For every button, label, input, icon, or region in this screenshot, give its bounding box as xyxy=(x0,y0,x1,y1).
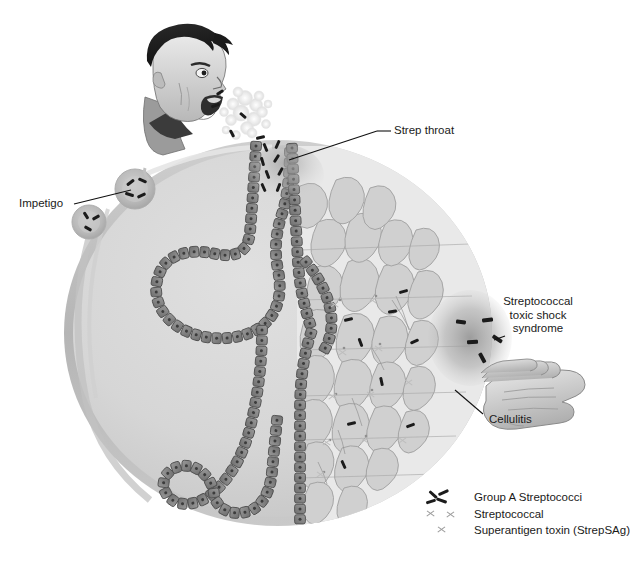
epithelial-cell xyxy=(297,358,309,369)
legend-label-strep-sag-2: Superantigen toxin (StrepSAg) xyxy=(474,523,630,538)
epithelial-cell xyxy=(295,484,306,493)
toxin-x-icon xyxy=(368,296,377,305)
toxin-x-icon xyxy=(338,348,347,357)
bacteria-rods-icon xyxy=(424,490,464,506)
epithelial-cell xyxy=(181,460,191,471)
legend-item-group-a-strep: Group A Streptococci xyxy=(424,490,609,507)
toxin-x-icon xyxy=(374,344,383,353)
epithelial-cell xyxy=(222,332,232,344)
epithelial-cell xyxy=(267,457,279,467)
toxin-x-icon xyxy=(330,300,339,309)
toxin-x-icon xyxy=(424,507,464,523)
epithelial-cell xyxy=(247,407,259,418)
toxin-x-icon xyxy=(322,438,331,447)
epithelial-cell xyxy=(257,325,268,334)
epithelial-cell xyxy=(294,278,306,289)
epithelial-cell xyxy=(325,323,337,333)
epithelial-cell xyxy=(295,452,306,461)
respiratory-droplet-spray xyxy=(220,87,273,140)
epithelial-cell xyxy=(326,313,337,323)
legend-rod xyxy=(436,497,447,504)
epithelial-cell xyxy=(250,141,261,151)
epithelial-cell xyxy=(274,281,285,290)
epithelial-cell xyxy=(212,333,222,344)
epithelial-cell xyxy=(298,298,311,309)
legend: Group A Streptococci Streptococcal Super… xyxy=(424,490,609,539)
epithelial-cell xyxy=(269,436,281,446)
legend-item-strep-sag-line2: Superantigen toxin (StrepSAg) xyxy=(424,523,609,539)
epithelial-cell xyxy=(270,250,281,260)
legend-rod xyxy=(438,489,449,497)
legend-item-strep-sag-line1: Streptococcal xyxy=(424,507,609,523)
epithelial-cell xyxy=(199,246,209,258)
toxin-x-icon xyxy=(404,378,413,387)
epithelial-cell xyxy=(273,218,286,230)
toxin-x-icon xyxy=(366,390,375,399)
epithelial-cell xyxy=(201,331,212,343)
epithelial-cell xyxy=(293,267,305,277)
epithelial-cell xyxy=(251,387,263,398)
epithelial-cell xyxy=(291,237,302,247)
epithelial-cell xyxy=(295,494,306,503)
coughing-man-profile xyxy=(143,24,233,155)
epithelial-cell xyxy=(151,276,163,287)
epithelial-cell xyxy=(295,421,306,430)
epithelial-cell xyxy=(270,426,282,436)
epithelial-cell xyxy=(266,467,278,477)
epithelial-cell xyxy=(246,203,257,213)
inflamed-hand-icon xyxy=(478,352,608,442)
epithelial-cell xyxy=(299,348,311,359)
epithelial-cell xyxy=(295,463,306,472)
callout-tss-text: Streptococcal toxic shock syndrome xyxy=(503,295,573,334)
epithelial-cell xyxy=(289,205,300,215)
callout-impetigo: Impetigo xyxy=(19,197,63,211)
epithelial-cell xyxy=(255,356,266,366)
legend-rod xyxy=(426,499,437,505)
epithelial-cell xyxy=(271,229,283,240)
epithelial-cell xyxy=(256,346,267,356)
epithelial-cell xyxy=(189,246,199,257)
epithelial-cell xyxy=(245,417,258,428)
epithelial-cell xyxy=(295,515,306,524)
epithelial-cell xyxy=(295,390,306,400)
toxin-x-icon xyxy=(424,523,464,539)
epithelial-cell xyxy=(271,415,283,425)
callout-strep-throat: Strep throat xyxy=(394,124,454,138)
epithelial-cell xyxy=(232,330,243,342)
epithelial-cell xyxy=(187,497,198,509)
epithelial-cell xyxy=(249,397,261,408)
epithelial-cell xyxy=(270,239,281,249)
epithelial-cell xyxy=(273,270,285,281)
legend-toxin-x xyxy=(437,525,446,534)
epithelial-cell xyxy=(295,379,307,389)
callout-toxic-shock-syndrome: Streptococcal toxic shock syndrome xyxy=(483,295,593,336)
epithelial-cell xyxy=(220,250,230,261)
epithelial-cell xyxy=(209,247,220,259)
toxin-x-icon xyxy=(328,392,337,401)
epithelial-cell xyxy=(245,214,256,224)
epithelial-cell xyxy=(253,377,265,388)
epithelial-cell xyxy=(150,287,162,297)
callout-cellulitis: Cellulitis xyxy=(489,413,532,427)
epithelial-cell xyxy=(296,369,308,379)
epithelial-cell xyxy=(230,507,240,519)
epithelial-cell xyxy=(271,260,283,271)
epithelial-cell xyxy=(268,446,280,456)
epithelial-cell xyxy=(244,224,256,234)
epithelial-cell xyxy=(291,226,302,236)
epithelial-cell xyxy=(247,193,258,203)
toxin-x-icon xyxy=(316,470,325,479)
epithelial-cell xyxy=(264,477,277,488)
legend-label-group-a-strep: Group A Streptococci xyxy=(474,490,582,505)
epithelial-cell xyxy=(256,336,267,345)
epithelial-cell xyxy=(296,288,308,299)
epithelial-cell xyxy=(292,247,303,257)
epithelial-cell xyxy=(273,291,285,302)
epithelial-cell xyxy=(290,216,301,226)
epithelial-cell xyxy=(295,411,306,420)
legend-toxin-x xyxy=(446,510,455,519)
epithelial-cell xyxy=(295,473,306,482)
epithelial-cell xyxy=(295,400,306,409)
